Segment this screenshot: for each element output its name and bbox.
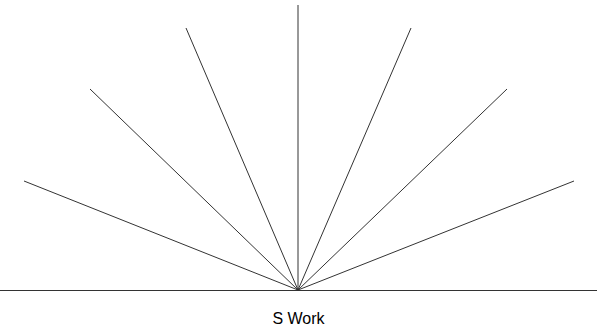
bottom-label: S Work [0, 311, 597, 327]
ray-2 [186, 28, 298, 290]
ray-1 [90, 89, 298, 290]
ray-0 [24, 181, 298, 290]
ray-5 [298, 89, 507, 290]
ray-4 [298, 28, 411, 290]
ray-6 [298, 181, 574, 290]
